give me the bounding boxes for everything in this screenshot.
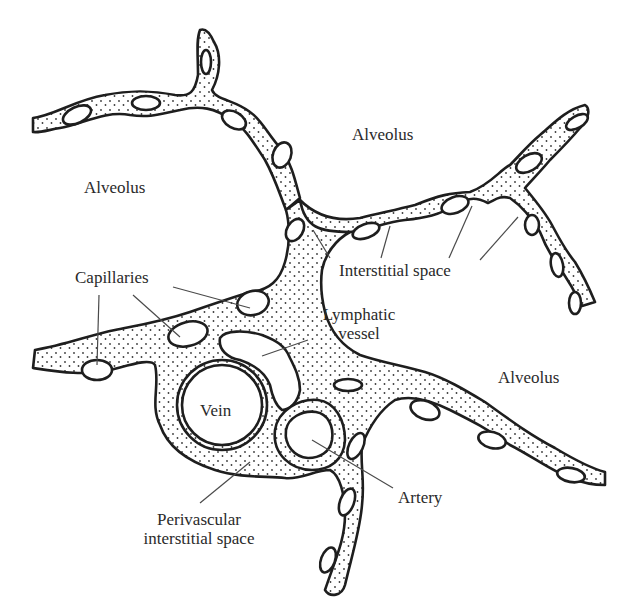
label-vein: Vein: [200, 401, 231, 420]
leader-interstitial-4: [480, 217, 518, 260]
label-capillaries: Capillaries: [75, 268, 149, 287]
leader-interstitial-2: [381, 226, 390, 258]
label-alveolus-left: Alveolus: [84, 178, 145, 197]
label-lymphatic-vessel: Lymphatic vessel: [303, 305, 415, 343]
capillary: [132, 96, 160, 110]
label-interstitial-space: Interstitial space: [339, 261, 451, 280]
septum-central: [33, 200, 605, 595]
artery: [275, 400, 345, 470]
capillary: [334, 379, 362, 391]
capillary: [569, 292, 581, 314]
capillary: [525, 215, 539, 235]
capillary: [201, 50, 211, 74]
label-artery: Artery: [398, 488, 442, 507]
label-alveolus-top: Alveolus: [352, 125, 413, 144]
label-alveolus-right: Alveolus: [498, 368, 559, 387]
label-perivascular-interstitial-space: Perivascular interstitial space: [120, 510, 278, 548]
capillary: [60, 101, 94, 128]
